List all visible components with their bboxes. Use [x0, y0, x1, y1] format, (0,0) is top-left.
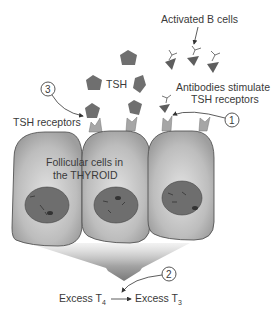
tsh-receptor-icon: [162, 116, 172, 131]
graves-disease-diagram: Activated B cells TSH Antibodies stimula…: [0, 0, 274, 312]
antibodies-label-line2: TSH receptors: [191, 93, 259, 105]
tsh-label: TSH: [106, 78, 127, 90]
nucleus-icon: [25, 187, 69, 223]
follicular-label-line2: the THYROID: [53, 169, 118, 181]
nucleus-icon: [94, 187, 138, 223]
callout-2: 2: [162, 267, 176, 281]
antibody-icon: [207, 51, 220, 73]
antibody-icon: [187, 46, 201, 66]
svg-text:1: 1: [229, 115, 235, 126]
callout-3-arrow: [52, 95, 83, 116]
tsh-receptor-icon: [89, 118, 102, 132]
activated-b-cells-label: Activated B cells: [161, 13, 238, 25]
antibody-icon: [159, 95, 171, 113]
follicular-label-line1: Follicular cells in: [46, 156, 123, 168]
tsh-pentagon-icon: [120, 50, 137, 65]
tsh-receptor-icon: [199, 117, 210, 131]
callout-3: 3: [41, 82, 55, 96]
excess-t4-label: Excess T4: [59, 292, 106, 306]
callout-1: 1: [225, 113, 239, 127]
tsh-pentagon-icon: [85, 103, 100, 118]
callout-1-arrow: [173, 112, 225, 118]
svg-text:Activated B cells: Activated B cells: [161, 13, 238, 25]
follicular-cell-right: [148, 131, 214, 240]
excess-t3-label: Excess T3: [135, 292, 182, 306]
tsh-receptors-label: TSH receptors: [13, 116, 81, 128]
antibody-icon: [165, 50, 177, 70]
tsh-pentagon-icon: [128, 100, 142, 115]
svg-text:Excess T4: Excess T4: [59, 292, 106, 306]
b-cells-arrow: [194, 27, 198, 44]
tsh-pentagon-icon: [133, 75, 146, 93]
antibodies-label-line1: Antibodies stimulate: [176, 81, 270, 93]
svg-text:2: 2: [166, 269, 172, 280]
nucleus-icon: [162, 181, 202, 215]
svg-text:3: 3: [45, 84, 51, 95]
svg-text:Excess T3: Excess T3: [135, 292, 182, 306]
tsh-pentagon-icon: [86, 75, 102, 90]
tsh-receptor-icon: [126, 117, 137, 131]
follicular-cell-left: [12, 132, 82, 246]
follicular-cell-middle: [82, 131, 150, 243]
